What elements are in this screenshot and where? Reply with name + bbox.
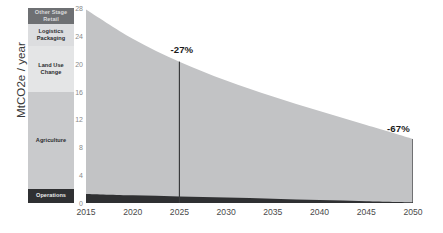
y-tick-label: 0 (79, 200, 83, 207)
annotation-minus27pct: -27% (170, 44, 193, 55)
x-tick-label: 2025 (170, 207, 189, 217)
x-tick-label: 2035 (263, 207, 282, 217)
x-tick-label: 2050 (403, 207, 422, 217)
total-footprint-area (86, 9, 413, 203)
y-tick-label: 24 (75, 32, 83, 39)
x-tick-label: 2015 (76, 207, 95, 217)
y-tick-label: 16 (75, 88, 83, 95)
y-axis-title: MtCO2e / year (15, 15, 27, 145)
y-tick-label: 28 (75, 5, 83, 12)
legend-segment-label: Agriculture (36, 137, 66, 144)
y-tick-label: 4 (79, 172, 83, 179)
x-tick-label: 2045 (357, 207, 376, 217)
y-axis-ticks: 0481216202428 (66, 8, 83, 203)
x-tick-label: 2020 (123, 207, 142, 217)
y-tick-label: 20 (75, 60, 83, 67)
y-tick-label: 8 (79, 144, 83, 151)
legend-segment-label: Operations (36, 192, 66, 199)
plot-area (86, 8, 413, 203)
annotation-minus67pct: -67% (387, 123, 410, 134)
x-tick-label: 2030 (217, 207, 236, 217)
legend-segment-label: LogisticsPackaging (37, 28, 65, 43)
legend-segment-label: Other StageRetail (35, 9, 67, 24)
area-series-group (86, 9, 413, 203)
x-axis-ticks: 20152020202520302035204020452050 (86, 207, 413, 223)
area-chart-svg (86, 8, 413, 203)
y-tick-label: 12 (75, 116, 83, 123)
emissions-pathway-chart: MtCO2e / year Other StageRetailLogistics… (0, 0, 443, 233)
legend-segment-label: Land UseChange (38, 62, 64, 77)
x-tick-label: 2040 (310, 207, 329, 217)
